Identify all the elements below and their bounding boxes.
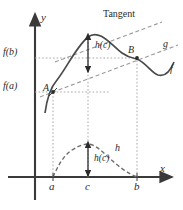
x-tick-label-c: c bbox=[85, 180, 90, 192]
curve-label-f: f bbox=[170, 63, 173, 74]
x-tick-label-b: b bbox=[134, 180, 140, 192]
curve-label-g: g bbox=[163, 38, 168, 49]
y-tick-label-fb: f(b) bbox=[3, 46, 17, 57]
point-marker-b bbox=[135, 56, 139, 60]
h-of-c-label-upper: h(c) bbox=[95, 40, 110, 50]
x-axis-label: x bbox=[160, 162, 165, 174]
curve-label-h: h bbox=[115, 142, 120, 153]
y-axis-label: y bbox=[41, 11, 46, 23]
diagram-canvas bbox=[0, 0, 183, 210]
x-tick-label-a: a bbox=[49, 180, 55, 192]
point-label-a: A bbox=[43, 82, 49, 93]
tangent-label: Tangent bbox=[103, 8, 135, 19]
y-tick-label-fa: f(a) bbox=[3, 80, 17, 91]
point-label-b: B bbox=[128, 44, 134, 55]
mvt-diagram: y x f(b) f(a) a c b A B Tangent g f h h(… bbox=[0, 0, 183, 210]
h-of-c-label-lower: h(c) bbox=[94, 153, 109, 163]
secant-line-g bbox=[40, 45, 178, 97]
